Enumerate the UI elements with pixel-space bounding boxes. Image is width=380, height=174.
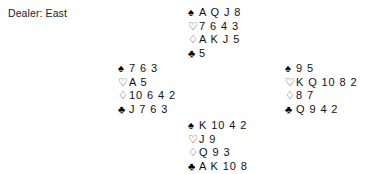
spade-icon: ♠	[118, 62, 129, 76]
hand-east: ♠ 9 5 ♡ K Q 10 8 2 ♢ 8 7 ♣ Q 9 4 2	[285, 62, 358, 116]
hand-south-clubs-row: ♣ A K 10 8	[188, 160, 248, 174]
hand-north-hearts-row: ♡ 7 6 4 3	[188, 20, 241, 34]
club-icon: ♣	[285, 103, 296, 117]
hand-east-diamonds-row: ♢ 8 7	[285, 89, 358, 103]
hand-west-diamonds-row: ♢ 10 6 4 2	[118, 89, 176, 103]
diamond-icon: ♢	[285, 89, 296, 103]
diamond-icon: ♢	[188, 33, 199, 47]
bridge-deal-diagram: Dealer: East ♠ A Q J 8 ♡ 7 6 4 3 ♢ A K J…	[0, 0, 380, 174]
hand-south-diamonds: Q 9 3	[199, 146, 230, 160]
hand-north-clubs: 5	[199, 47, 206, 61]
hand-north-spades-row: ♠ A Q J 8	[188, 6, 241, 20]
hand-south-spades-row: ♠ K 10 4 2	[188, 119, 248, 133]
heart-icon: ♡	[285, 76, 296, 90]
hand-east-clubs: Q 9 4 2	[296, 103, 338, 117]
spade-icon: ♠	[285, 62, 296, 76]
club-icon: ♣	[188, 47, 199, 61]
hand-south: ♠ K 10 4 2 ♡ J 9 ♢ Q 9 3 ♣ A K 10 8	[188, 119, 248, 173]
diamond-icon: ♢	[118, 89, 129, 103]
diamond-icon: ♢	[188, 146, 199, 160]
hand-east-clubs-row: ♣ Q 9 4 2	[285, 103, 358, 117]
hand-north-diamonds-row: ♢ A K J 5	[188, 33, 241, 47]
hand-south-diamonds-row: ♢ Q 9 3	[188, 146, 248, 160]
hand-east-diamonds: 8 7	[296, 89, 314, 103]
hand-west-hearts-row: ♡ A 5	[118, 76, 176, 90]
hand-west-diamonds: 10 6 4 2	[129, 89, 176, 103]
hand-south-hearts: J 9	[199, 133, 216, 147]
hand-east-hearts-row: ♡ K Q 10 8 2	[285, 76, 358, 90]
hand-east-spades: 9 5	[296, 62, 314, 76]
hand-north-spades: A Q J 8	[199, 6, 241, 20]
hand-west-clubs-row: ♣ J 7 6 3	[118, 103, 176, 117]
spade-icon: ♠	[188, 119, 199, 133]
hand-south-hearts-row: ♡ J 9	[188, 133, 248, 147]
hand-west: ♠ 7 6 3 ♡ A 5 ♢ 10 6 4 2 ♣ J 7 6 3	[118, 62, 176, 116]
heart-icon: ♡	[188, 133, 199, 147]
club-icon: ♣	[118, 103, 129, 117]
hand-north-diamonds: A K J 5	[199, 33, 240, 47]
hand-north-clubs-row: ♣ 5	[188, 47, 241, 61]
hand-north-hearts: 7 6 4 3	[199, 20, 239, 34]
heart-icon: ♡	[118, 76, 129, 90]
hand-south-clubs: A K 10 8	[199, 160, 248, 174]
dealer-label: Dealer: East	[8, 7, 67, 20]
hand-west-hearts: A 5	[129, 76, 148, 90]
spade-icon: ♠	[188, 6, 199, 20]
club-icon: ♣	[188, 160, 199, 174]
heart-icon: ♡	[188, 20, 199, 34]
hand-west-clubs: J 7 6 3	[129, 103, 168, 117]
hand-east-hearts: K Q 10 8 2	[296, 76, 358, 90]
hand-west-spades-row: ♠ 7 6 3	[118, 62, 176, 76]
hand-north: ♠ A Q J 8 ♡ 7 6 4 3 ♢ A K J 5 ♣ 5	[188, 6, 241, 60]
hand-west-spades: 7 6 3	[129, 62, 158, 76]
hand-south-spades: K 10 4 2	[199, 119, 247, 133]
hand-east-spades-row: ♠ 9 5	[285, 62, 358, 76]
